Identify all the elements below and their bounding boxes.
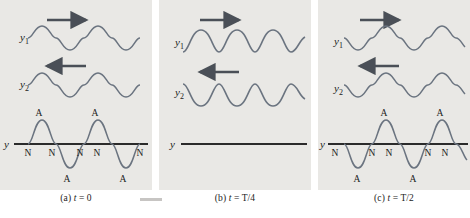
node-label: N	[332, 148, 339, 158]
antinode-label: A	[437, 108, 444, 118]
antinode-label: A	[410, 174, 417, 184]
caption-c-eq: = T/2	[393, 193, 414, 203]
caption-b-var: t	[229, 193, 232, 203]
y-label-b: y	[169, 138, 175, 150]
y1-label-b: y1	[174, 36, 184, 51]
panel-a: y1 y2 y A A A A N N N N N	[0, 0, 152, 190]
standing-wave-figure: y1 y2 y A A A A N N N N N	[0, 0, 470, 218]
panel-c: y1 y2 y A A A A N N N N N	[318, 0, 470, 190]
node-label: N	[49, 148, 56, 158]
wave-y1-c	[344, 26, 465, 50]
wave-y2-a	[28, 73, 140, 97]
antinode-label: A	[120, 174, 127, 184]
node-label: N	[442, 148, 449, 158]
antinode-label: A	[64, 174, 71, 184]
caption-c-prefix: (c)	[374, 193, 385, 203]
y-label-a: y	[3, 138, 9, 150]
y2-label-b: y2	[174, 86, 184, 101]
y1-label-c: y1	[333, 35, 343, 50]
y2-label-a: y2	[19, 78, 29, 93]
antinode-label: A	[92, 108, 99, 118]
node-label: N	[425, 148, 432, 158]
antinode-label: A	[36, 108, 43, 118]
caption-c: (c) t = T/2	[318, 193, 470, 203]
wave-y2-c	[344, 73, 465, 97]
node-label: N	[94, 148, 101, 158]
caption-a: (a) t = 0	[0, 193, 152, 203]
wave-y1-a	[28, 26, 140, 50]
caption-a-var: t	[74, 193, 77, 203]
caption-a-eq: = 0	[79, 193, 92, 203]
caption-b: (b) t = T/4	[159, 193, 311, 203]
y2-label-c: y2	[333, 82, 343, 97]
wave-y2-b	[183, 84, 305, 106]
node-label: N	[77, 148, 84, 158]
y-label-c: y	[319, 138, 325, 150]
wave-y1-b	[183, 30, 305, 52]
caption-c-var: t	[387, 193, 390, 203]
node-label: N	[25, 148, 32, 158]
antinode-label: A	[354, 174, 361, 184]
caption-a-prefix: (a)	[60, 193, 71, 203]
node-label: N	[386, 148, 393, 158]
caption-b-prefix: (b)	[215, 193, 226, 203]
panel-b: y1 y2 y	[159, 0, 311, 190]
node-label: N	[369, 148, 376, 158]
caption-b-eq: = T/4	[234, 193, 255, 203]
y1-label-a: y1	[19, 31, 29, 46]
antinode-label: A	[381, 108, 388, 118]
node-label: N	[137, 148, 144, 158]
